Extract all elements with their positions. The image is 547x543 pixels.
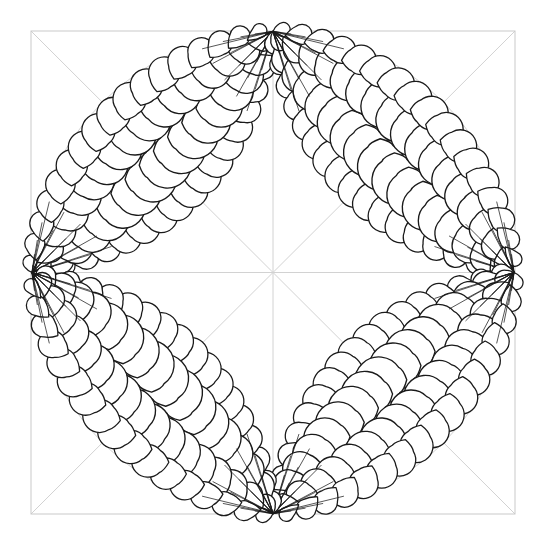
pattern-svg-root	[0, 0, 547, 543]
quilting-pattern-canvas	[0, 0, 547, 543]
